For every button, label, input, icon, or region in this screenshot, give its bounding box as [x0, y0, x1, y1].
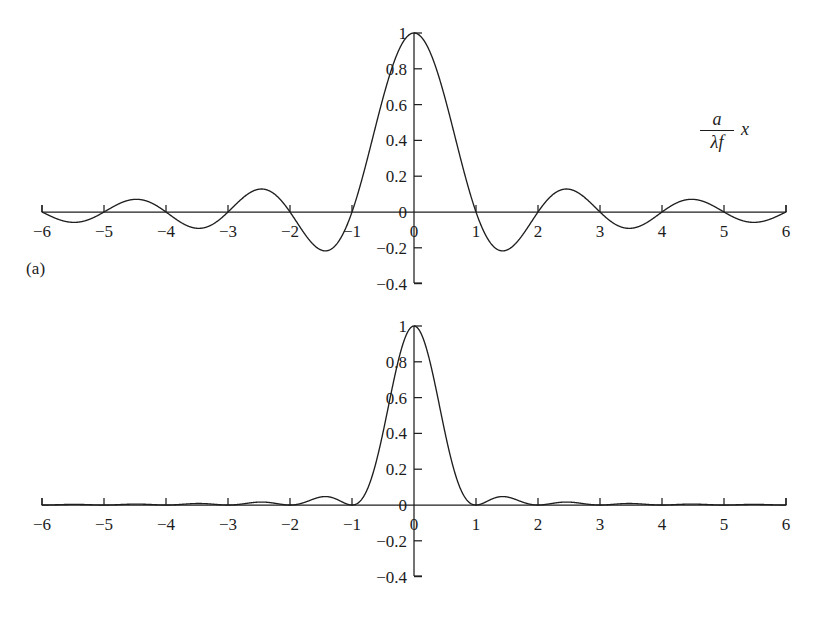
- x-tick-label: −4: [157, 515, 176, 534]
- x-tick-label: 2: [534, 222, 543, 241]
- figure-root: −6−5−4−3−2−10123456−0.4−0.200.20.40.60.8…: [0, 0, 831, 625]
- axis-variable-x: x: [741, 119, 749, 140]
- x-tick-label: −2: [281, 515, 299, 534]
- x-tick-label: 0: [410, 222, 419, 241]
- x-tick-label: −2: [281, 222, 299, 241]
- y-tick-label: 1: [399, 317, 408, 336]
- x-tick-label: 6: [782, 222, 791, 241]
- fraction-a-over-lambda-f: a λf: [700, 110, 734, 151]
- plot-panel-a: −6−5−4−3−2−10123456−0.4−0.200.20.40.60.8…: [0, 0, 831, 312]
- x-tick-label: −1: [343, 222, 361, 241]
- x-tick-label: 4: [658, 222, 667, 241]
- x-tick-label: 3: [596, 222, 605, 241]
- y-tick-label: 0.4: [386, 424, 408, 443]
- y-tick-label: −0.2: [376, 239, 407, 258]
- y-tick-label: 0.2: [386, 167, 407, 186]
- x-tick-label: 3: [596, 515, 605, 534]
- plot-panel-b: −6−5−4−3−2−10123456−0.4−0.200.20.40.60.8…: [0, 312, 831, 625]
- sinc-plot-a: −6−5−4−3−2−10123456−0.4−0.200.20.40.60.8…: [0, 0, 831, 312]
- y-tick-label: 0: [399, 203, 408, 222]
- x-axis-label-a: a λf x: [700, 110, 749, 151]
- fraction-numerator: a: [707, 110, 728, 130]
- y-tick-label: 0: [399, 496, 408, 515]
- x-tick-label: −3: [219, 515, 237, 534]
- sinc-squared-plot-b: −6−5−4−3−2−10123456−0.4−0.200.20.40.60.8…: [0, 312, 831, 625]
- x-tick-label: 1: [472, 222, 481, 241]
- y-tick-label: 0.4: [386, 131, 408, 150]
- x-tick-label: −5: [95, 515, 113, 534]
- y-tick-label: 1: [399, 24, 408, 43]
- y-tick-label: 0.6: [386, 96, 407, 115]
- fraction-denominator: λf: [706, 131, 729, 151]
- y-tick-label: 0.2: [386, 460, 407, 479]
- x-tick-label: 6: [782, 515, 791, 534]
- x-tick-label: −5: [95, 222, 113, 241]
- x-tick-label: 5: [720, 222, 729, 241]
- x-tick-label: −6: [33, 515, 51, 534]
- x-tick-label: 5: [720, 515, 729, 534]
- x-tick-label: −3: [219, 222, 237, 241]
- y-tick-label: −0.4: [376, 275, 407, 294]
- y-tick-label: −0.4: [376, 568, 407, 587]
- y-tick-label: −0.2: [376, 532, 407, 551]
- x-tick-label: −6: [33, 222, 51, 241]
- x-tick-label: 2: [534, 515, 543, 534]
- x-tick-label: −4: [157, 222, 176, 241]
- x-tick-label: −1: [343, 515, 361, 534]
- panel-caption-a: (a): [26, 259, 45, 279]
- x-tick-label: 0: [410, 515, 419, 534]
- x-tick-label: 1: [472, 515, 481, 534]
- x-tick-label: 4: [658, 515, 667, 534]
